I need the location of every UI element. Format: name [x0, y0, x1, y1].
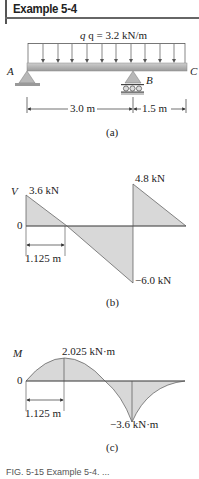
span-bc-label: 1.5 m	[142, 102, 167, 114]
moment-max-label: 2.025 kN·m	[62, 345, 115, 357]
moment-zero-label: 0	[17, 374, 23, 386]
shear-value-a: 3.6 kN	[29, 184, 59, 196]
caption-a: (a)	[106, 126, 118, 138]
shear-dimension: 1.125 m	[25, 252, 61, 264]
shear-value-b-left: −6.0 kN	[135, 274, 171, 286]
point-b-label: B	[146, 74, 153, 86]
caption-c: (c)	[106, 441, 118, 453]
moment-dimension: 1.125 m	[25, 407, 61, 419]
point-a-label: A	[7, 65, 14, 77]
moment-axis-label: M	[13, 347, 22, 359]
distributed-load	[28, 43, 185, 63]
roller-support-b	[121, 71, 144, 95]
shear-diagram	[26, 184, 186, 283]
point-c-label: C	[190, 65, 197, 77]
load-label: q q = 3.2 kN/m	[80, 29, 147, 41]
pin-support-a	[15, 71, 40, 86]
span-ab-label: 3.0 m	[70, 102, 95, 114]
moment-min-label: −3.6 kN·m	[110, 418, 158, 430]
shear-value-b-right: 4.8 kN	[135, 172, 165, 184]
shear-axis-label: V	[11, 185, 18, 197]
caption-b: (b)	[106, 296, 119, 308]
beam	[27, 63, 187, 71]
shear-zero-label: 0	[17, 219, 23, 231]
figure-caption: FIG. 5-15 Example 5-4. ...	[6, 467, 110, 477]
